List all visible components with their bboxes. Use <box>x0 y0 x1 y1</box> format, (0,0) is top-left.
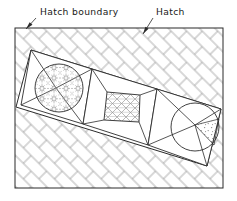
hatch-boundary-label: Hatch boundary <box>40 6 119 17</box>
hatch-illustration-svg: Hatch boundary Hatch <box>0 0 237 201</box>
figure-root: Hatch boundary Hatch <box>0 0 237 201</box>
hatch-label: Hatch <box>156 6 185 17</box>
